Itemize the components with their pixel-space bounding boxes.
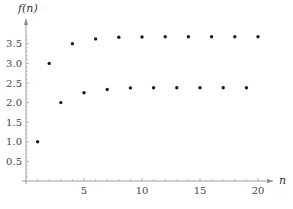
data-point <box>245 86 248 89</box>
data-point <box>94 37 97 40</box>
data-point <box>140 35 143 38</box>
data-point <box>129 86 132 89</box>
y-tick-label: 2.0 <box>6 97 22 108</box>
data-point <box>233 35 236 38</box>
x-tick-label: 20 <box>252 185 265 196</box>
y-tick-label: 2.5 <box>6 78 22 89</box>
data-point <box>164 35 167 38</box>
data-point <box>187 35 190 38</box>
x-tick-label: 10 <box>136 185 149 196</box>
scatter-chart: 0.51.01.52.02.53.03.5 5101520 f(n) n <box>0 0 293 209</box>
y-axis-arrow-icon <box>24 18 28 25</box>
data-point <box>117 36 120 39</box>
data-point <box>198 86 201 89</box>
y-axis: 0.51.01.52.02.53.03.5 <box>6 18 29 184</box>
data-point <box>210 35 213 38</box>
data-point <box>71 42 74 45</box>
data-point <box>82 91 85 94</box>
y-tick-label: 1.5 <box>6 117 22 128</box>
x-axis-arrow-icon <box>267 179 274 183</box>
y-tick-label: 3.0 <box>6 58 22 69</box>
x-axis-label: n <box>279 174 286 187</box>
y-tick-label: 0.5 <box>6 156 22 167</box>
data-point <box>175 86 178 89</box>
y-tick-label: 3.5 <box>6 38 22 49</box>
data-point <box>256 35 259 38</box>
data-point <box>222 86 225 89</box>
y-axis-label: f(n) <box>17 2 38 15</box>
data-point <box>152 86 155 89</box>
data-point <box>36 140 39 143</box>
data-point <box>48 62 51 65</box>
y-tick-label: 1.0 <box>6 136 22 147</box>
x-tick-label: 5 <box>81 185 87 196</box>
data-point <box>59 101 62 104</box>
data-points <box>36 35 260 143</box>
x-axis: 5101520 <box>22 178 274 196</box>
x-tick-label: 15 <box>194 185 207 196</box>
data-point <box>106 88 109 91</box>
